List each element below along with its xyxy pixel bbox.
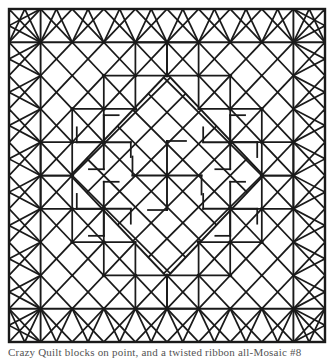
figure-caption-text: Crazy Quilt blocks on point, and a twist… bbox=[0, 346, 334, 358]
figure-caption: Crazy Quilt blocks on point, and a twist… bbox=[0, 344, 334, 358]
pattern-linework bbox=[7, 7, 327, 344]
pattern-figure bbox=[0, 0, 334, 348]
figure-page: Crazy Quilt blocks on point, and a twist… bbox=[0, 0, 334, 358]
pattern-canvas bbox=[0, 0, 334, 348]
